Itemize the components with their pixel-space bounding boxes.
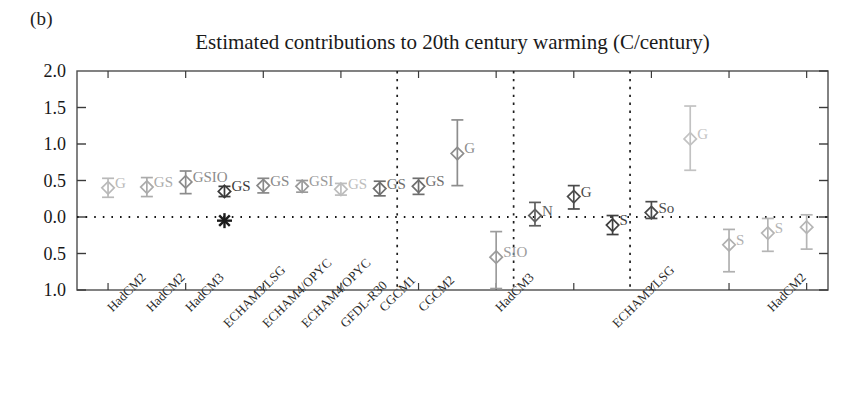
data-point: [684, 106, 696, 170]
point-annotation-label: SIO: [503, 244, 527, 261]
data-point: [141, 178, 153, 197]
data-point: [529, 202, 541, 225]
point-annotation-label: N: [542, 202, 553, 219]
point-annotation-label: GSI: [309, 173, 333, 190]
data-point: [568, 186, 580, 209]
data-point: [606, 216, 618, 235]
y-axis-tick-label: 1.0: [20, 280, 66, 301]
data-point: [723, 229, 735, 271]
data-point: [645, 202, 657, 219]
y-axis-tick-label: 1.5: [20, 97, 66, 118]
point-annotation-label: G: [115, 174, 126, 191]
data-point: [762, 218, 774, 251]
scatter-plot: [0, 0, 858, 414]
data-point: [218, 185, 230, 197]
data-point: [102, 178, 114, 197]
y-axis-tick-label: 1.0: [20, 134, 66, 155]
data-point: [490, 232, 502, 289]
y-axis-tick-label: 2.0: [20, 61, 66, 82]
data-point: [412, 178, 424, 194]
point-annotation-label: S: [775, 220, 783, 237]
data-point: [451, 120, 463, 186]
point-annotation-label: G: [697, 125, 708, 142]
data-point: [296, 180, 308, 192]
data-point: [257, 178, 269, 193]
point-annotation-label: G: [581, 183, 592, 200]
point-annotation-label: GS: [348, 176, 367, 193]
data-point: [374, 181, 386, 196]
asterisk-marker: [217, 213, 232, 228]
y-axis-tick-label: 0.5: [20, 243, 66, 264]
y-axis-tick-label: 0.5: [20, 170, 66, 191]
point-annotation-label: GS: [426, 173, 445, 190]
point-annotation-label: GS: [387, 175, 406, 192]
point-annotation-label: GS: [154, 174, 173, 191]
point-annotation-label: G: [464, 140, 475, 157]
point-annotation-label: So: [658, 199, 674, 216]
data-point: [335, 183, 347, 195]
figure-panel-b: (b) Estimated contributions to 20th cent…: [0, 0, 858, 414]
data-point: [800, 215, 812, 249]
point-annotation-label: S: [620, 212, 628, 229]
point-annotation-label: S: [736, 231, 744, 248]
point-annotation-label: GS: [231, 178, 250, 195]
point-annotation-label: GS: [270, 172, 289, 189]
point-annotation-label: GSIO: [193, 168, 228, 185]
y-axis-tick-label: 0.0: [20, 207, 66, 228]
data-point: [179, 171, 191, 194]
